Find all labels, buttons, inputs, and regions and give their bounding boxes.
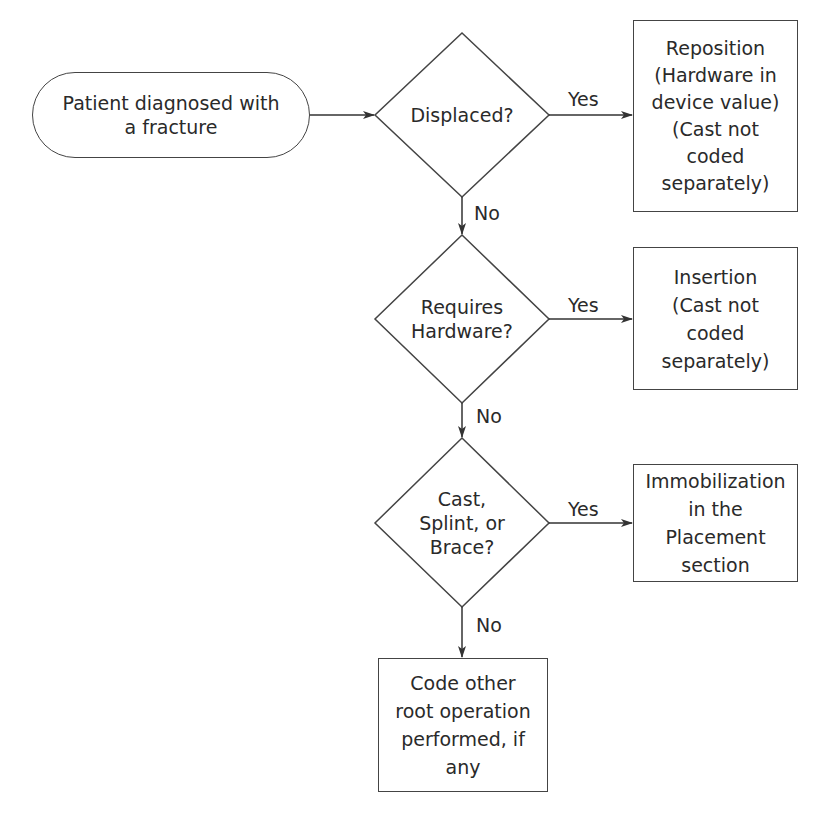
- outcome-immobilization: Immobilization in the Placement section: [633, 464, 798, 582]
- outcome-insertion: Insertion (Cast not coded separately): [633, 247, 798, 390]
- outcome-reposition: Reposition (Hardware in device value) (C…: [633, 20, 798, 212]
- decision-displaced-text: Displaced?: [410, 103, 513, 127]
- edge-label-d1-no: No: [474, 202, 500, 224]
- decision-cast-splint-brace: Cast, Splint, or Brace?: [385, 483, 539, 563]
- outcome-insertion-text: Insertion (Cast not coded separately): [662, 263, 770, 375]
- start-node: Patient diagnosed with a fracture: [32, 72, 310, 158]
- decision-requires-hardware: Requires Hardware?: [385, 289, 539, 349]
- decision-cast-splint-brace-text: Cast, Splint, or Brace?: [419, 487, 505, 559]
- edge-label-d1-yes: Yes: [568, 88, 599, 110]
- edge-label-d3-yes: Yes: [568, 498, 599, 520]
- outcome-reposition-text: Reposition (Hardware in device value) (C…: [652, 35, 780, 197]
- edge-label-d3-no: No: [476, 614, 502, 636]
- start-node-text: Patient diagnosed with a fracture: [63, 91, 280, 139]
- outcome-immobilization-text: Immobilization in the Placement section: [645, 467, 785, 579]
- decision-displaced: Displaced?: [385, 85, 539, 145]
- outcome-code-other: Code other root operation performed, if …: [378, 658, 548, 792]
- outcome-code-other-text: Code other root operation performed, if …: [395, 669, 530, 781]
- edge-label-d2-yes: Yes: [568, 294, 599, 316]
- decision-requires-hardware-text: Requires Hardware?: [411, 295, 513, 343]
- edge-label-d2-no: No: [476, 405, 502, 427]
